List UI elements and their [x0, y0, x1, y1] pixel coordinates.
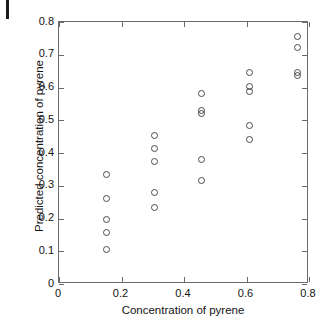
y-tick-label: 0.8: [39, 16, 54, 27]
scatter-point: [198, 90, 205, 97]
scatter-point: [103, 246, 110, 253]
y-axis-tick: [59, 186, 64, 187]
figure-page: 00.10.20.30.40.50.60.70.8 00.20.40.60.8 …: [0, 0, 323, 324]
x-axis-tick: [184, 277, 185, 282]
y-axis-tick-right: [302, 219, 307, 220]
scatter-point: [246, 88, 253, 95]
plot-area: [58, 21, 308, 283]
scatter-point: [198, 156, 205, 163]
scatter-point: [103, 216, 110, 223]
y-axis-label: Predicted concentration of pyrene: [33, 46, 45, 246]
x-tick-label: 0.4: [175, 287, 190, 299]
scatter-point: [246, 122, 253, 129]
y-axis-tick: [59, 284, 64, 285]
y-axis-tick: [59, 88, 64, 89]
y-axis-tick-right: [302, 153, 307, 154]
y-axis-tick-right: [302, 120, 307, 121]
y-axis-tick-right: [302, 251, 307, 252]
x-tick-label: 0: [55, 287, 61, 299]
x-axis-tick-top: [122, 22, 123, 27]
x-axis-label: Concentration of pyrene: [58, 304, 308, 316]
y-axis-tick: [59, 219, 64, 220]
scatter-point: [151, 204, 158, 211]
y-axis-tick-right: [302, 88, 307, 89]
scatter-point: [246, 69, 253, 76]
y-tick-label: 0: [48, 278, 54, 289]
y-axis-tick: [59, 251, 64, 252]
x-tick-label: 0.6: [238, 287, 253, 299]
scatter-point: [246, 136, 253, 143]
y-tick-label: 0.1: [39, 245, 54, 256]
scatter-point: [103, 195, 110, 202]
x-tick-label: 0.2: [113, 287, 128, 299]
scatter-point: [294, 72, 301, 79]
scatter-point: [198, 177, 205, 184]
x-axis-tick-top: [309, 22, 310, 27]
x-axis-tick: [59, 277, 60, 282]
x-axis-tick-top: [59, 22, 60, 27]
x-axis-tick-labels: 00.20.40.60.8: [58, 287, 308, 303]
scatter-point: [198, 110, 205, 117]
x-axis-tick: [309, 277, 310, 282]
scatter-point: [151, 189, 158, 196]
scatter-point: [151, 145, 158, 152]
scatter-point: [151, 132, 158, 139]
y-axis-tick-right: [302, 186, 307, 187]
y-axis-tick-right: [302, 55, 307, 56]
y-axis-tick: [59, 153, 64, 154]
y-axis-tick-right: [302, 22, 307, 23]
y-axis-tick: [59, 55, 64, 56]
x-axis-tick-top: [247, 22, 248, 27]
scatter-point: [103, 171, 110, 178]
scatter-point: [294, 44, 301, 51]
y-axis-tick-right: [302, 284, 307, 285]
scatter-point: [103, 229, 110, 236]
scatter-point: [151, 158, 158, 165]
x-axis-tick-top: [184, 22, 185, 27]
x-axis-tick: [247, 277, 248, 282]
x-tick-label: 0.8: [300, 287, 315, 299]
page-edge-artifact: [6, 0, 9, 19]
y-axis-tick: [59, 120, 64, 121]
x-axis-tick: [122, 277, 123, 282]
scatter-point: [294, 33, 301, 40]
